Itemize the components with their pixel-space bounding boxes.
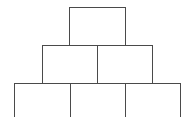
top-box	[69, 7, 126, 46]
middle-box-left	[42, 45, 98, 84]
bottom-box-right	[125, 83, 181, 117]
bottom-box-left	[14, 83, 71, 117]
middle-box-right	[97, 45, 153, 84]
bottom-box-center	[70, 83, 126, 117]
